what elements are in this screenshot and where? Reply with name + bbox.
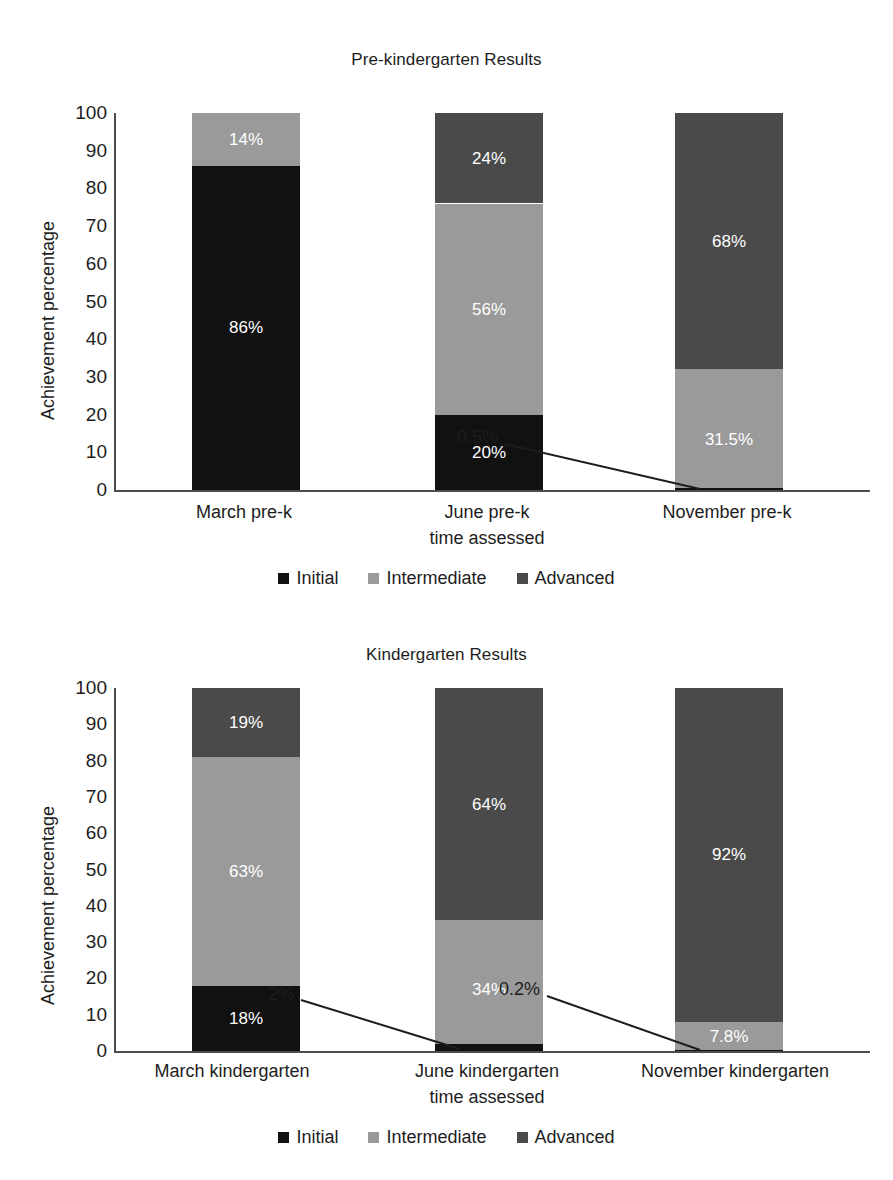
legend-swatch-advanced — [517, 573, 528, 584]
x-tick-label: November kindergarten — [641, 1061, 829, 1082]
axis-extension — [854, 1051, 870, 1053]
y-tick: 90 — [86, 713, 107, 735]
y-tick: 60 — [86, 822, 107, 844]
bar-segment-intermediate[interactable]: 14% — [192, 113, 300, 166]
bar-segment-advanced[interactable]: 68% — [675, 113, 783, 369]
legend: Initial Intermediate Advanced — [0, 1127, 893, 1148]
plot-area: 100 90 80 70 60 50 40 30 20 10 0 18% 63%… — [114, 688, 856, 1053]
y-axis-title: Achievement percentage — [38, 806, 59, 1005]
callout-label: 2% — [268, 984, 294, 1005]
y-axis-title: Achievement percentage — [38, 221, 59, 420]
y-tick: 20 — [86, 967, 107, 989]
bar-segment-advanced[interactable]: 64% — [435, 688, 543, 920]
bar-segment-initial[interactable]: 2% — [435, 1044, 543, 1051]
y-tick: 0 — [96, 1040, 107, 1062]
chart-kindergarten: Kindergarten Results Achievement percent… — [0, 600, 893, 1180]
legend-item-intermediate[interactable]: Intermediate — [368, 1127, 486, 1148]
chart-title: Pre-kindergarten Results — [0, 50, 893, 70]
bar-segment-label: 86% — [229, 319, 263, 336]
bar-segment-intermediate[interactable]: 31.5% — [675, 369, 783, 488]
bar-segment-advanced[interactable]: 92% — [675, 688, 783, 1022]
bar-stack[interactable]: 0.5% 31.5% 68% — [675, 113, 783, 490]
legend: Initial Intermediate Advanced — [0, 568, 893, 589]
chart-pre-kindergarten: Pre-kindergarten Results Achievement per… — [0, 0, 893, 600]
y-tick: 10 — [86, 1004, 107, 1026]
chart-title: Kindergarten Results — [0, 645, 893, 665]
bar-segment-label: 68% — [712, 233, 746, 250]
bar-segment-label: 19% — [229, 714, 263, 731]
x-axis-title: time assessed — [429, 528, 544, 549]
bar-segment-label: 64% — [472, 796, 506, 813]
bar-segment-label: 63% — [229, 863, 263, 880]
bar-segment-initial[interactable]: 86% — [192, 166, 300, 490]
bar-segment-intermediate[interactable]: 63% — [192, 757, 300, 986]
bar-segment-advanced[interactable]: 19% — [192, 688, 300, 757]
legend-swatch-intermediate — [368, 1132, 379, 1143]
bar-segment-intermediate[interactable]: 7.8% — [675, 1022, 783, 1050]
y-tick: 20 — [86, 404, 107, 426]
y-tick: 40 — [86, 328, 107, 350]
legend-item-intermediate[interactable]: Intermediate — [368, 568, 486, 589]
legend-label: Advanced — [535, 1127, 615, 1148]
y-tick: 30 — [86, 931, 107, 953]
legend-item-initial[interactable]: Initial — [278, 568, 338, 589]
y-tick: 50 — [86, 859, 107, 881]
legend-label: Advanced — [535, 568, 615, 589]
y-tick: 100 — [75, 102, 107, 124]
y-tick: 60 — [86, 253, 107, 275]
x-tick-label: June kindergarten — [415, 1061, 559, 1082]
bar-segment-label: 31.5% — [705, 431, 753, 448]
y-tick: 50 — [86, 291, 107, 313]
legend-swatch-initial — [278, 1132, 289, 1143]
legend-swatch-advanced — [517, 1132, 528, 1143]
legend-label: Intermediate — [386, 1127, 486, 1148]
y-tick: 80 — [86, 177, 107, 199]
bar-segment-label: 92% — [712, 846, 746, 863]
x-tick-label: November pre-k — [662, 502, 791, 523]
bar-segment-label: 14% — [229, 131, 263, 148]
legend-item-initial[interactable]: Initial — [278, 1127, 338, 1148]
y-tick: 40 — [86, 895, 107, 917]
x-tick-label: March kindergarten — [154, 1061, 309, 1082]
bar-segment-advanced[interactable]: 24% — [435, 113, 543, 203]
bar-segment-label: 24% — [472, 150, 506, 167]
x-tick-label: June pre-k — [444, 502, 529, 523]
axis-extension — [854, 490, 870, 492]
y-tick: 90 — [86, 140, 107, 162]
legend-swatch-initial — [278, 573, 289, 584]
bar-segment-intermediate[interactable]: 56% — [435, 204, 543, 415]
y-tick: 0 — [96, 479, 107, 501]
y-tick: 10 — [86, 441, 107, 463]
y-tick: 30 — [86, 366, 107, 388]
legend-swatch-intermediate — [368, 573, 379, 584]
bar-segment-initial[interactable]: 0.2% — [675, 1050, 783, 1051]
legend-label: Initial — [296, 568, 338, 589]
callout-label: 0.5% — [457, 427, 498, 448]
legend-item-advanced[interactable]: Advanced — [517, 568, 615, 589]
y-tick: 70 — [86, 786, 107, 808]
bar-segment-label: 56% — [472, 301, 506, 318]
bar-segment-label: 7.8% — [710, 1028, 749, 1045]
legend-label: Initial — [296, 1127, 338, 1148]
y-tick: 70 — [86, 215, 107, 237]
callout-label: 0.2% — [499, 979, 540, 1000]
bar-segment-label: 18% — [229, 1010, 263, 1027]
x-axis-title: time assessed — [429, 1087, 544, 1108]
bar-segment-initial[interactable]: 0.5% — [675, 488, 783, 490]
x-tick-label: March pre-k — [196, 502, 292, 523]
legend-item-advanced[interactable]: Advanced — [517, 1127, 615, 1148]
bar-stack[interactable]: 0.2% 7.8% 92% — [675, 688, 783, 1051]
y-tick: 80 — [86, 750, 107, 772]
bar-stack[interactable]: 86% 14% — [192, 113, 300, 490]
y-tick: 100 — [75, 677, 107, 699]
legend-label: Intermediate — [386, 568, 486, 589]
